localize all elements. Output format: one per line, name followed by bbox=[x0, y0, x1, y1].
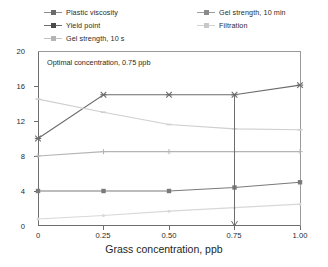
optimal-concentration-arrow bbox=[232, 95, 238, 226]
series-filtration bbox=[37, 203, 302, 221]
chart-figure: Plastic viscosity Gel strength, 10 min Y… bbox=[0, 0, 328, 267]
series-plastic-viscosity bbox=[35, 82, 303, 141]
series-yield-point bbox=[36, 180, 302, 193]
series-gel-strength-10-s bbox=[35, 149, 302, 159]
series-gel-strength-10-min bbox=[35, 99, 302, 130]
series-layer bbox=[0, 0, 328, 267]
